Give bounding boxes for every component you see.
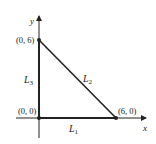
x-axis-label: x [142, 123, 147, 133]
point-0-0 [37, 116, 41, 120]
segment-l2 [39, 40, 116, 118]
point-6-0 [114, 116, 118, 120]
triangle-diagram: y x (0, 6) (0, 0) (6, 0) L3 L2 L1 [0, 0, 156, 144]
point-label-0-6: (0, 6) [16, 35, 35, 45]
point-label-0-0: (0, 0) [18, 106, 37, 116]
segment-label-l3: L3 [23, 74, 34, 87]
point-0-6 [37, 38, 41, 42]
y-axis-label: y [29, 16, 34, 26]
point-label-6-0: (6, 0) [118, 106, 137, 116]
segment-label-l1: L1 [68, 123, 79, 136]
